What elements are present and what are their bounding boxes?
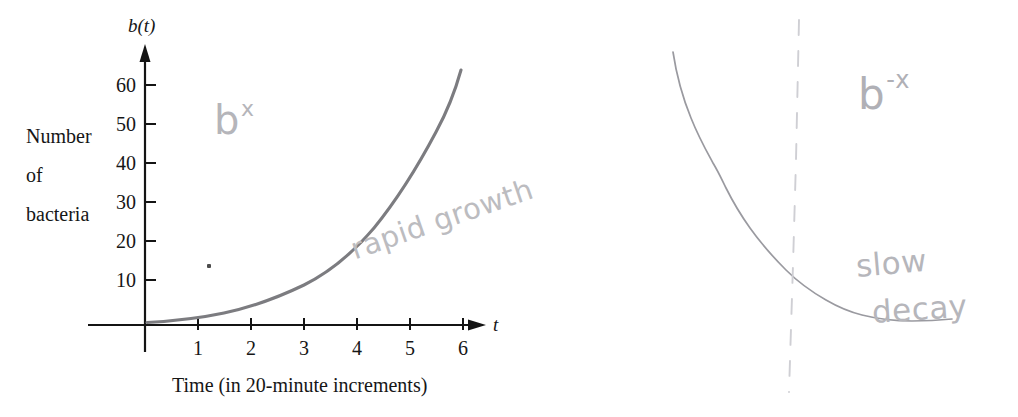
y-tick-label-40: 40 xyxy=(82,153,136,173)
dashed-reference-line xyxy=(789,20,799,392)
handwritten-annotation-b-power-neg-x: b-x xyxy=(858,74,909,116)
left-plot-axes xyxy=(88,44,486,352)
y-axis-caption-line-1: Number xyxy=(26,126,92,146)
scan-speck-artifact xyxy=(207,264,211,268)
y-tick-label-60: 60 xyxy=(82,75,136,95)
handwritten-b-base-right: b xyxy=(858,70,885,119)
x-tick-label-1: 1 xyxy=(188,338,208,358)
y-tick-label-20: 20 xyxy=(82,231,136,251)
x-tick-label-2: 2 xyxy=(241,338,261,358)
handwritten-annotation-b-power-x: bx xyxy=(214,100,253,140)
handwritten-annotation-decay: decay xyxy=(871,290,969,328)
x-tick-label-6: 6 xyxy=(453,338,473,358)
y-tick-marks xyxy=(145,85,156,280)
handwritten-b-exponent-right: -x xyxy=(886,66,910,94)
handwritten-annotation-slow: slow xyxy=(855,245,929,282)
x-axis-arrowhead xyxy=(468,320,486,331)
textbook-figure: b(t) t 60 50 40 30 20 10 1 2 3 4 5 6 Num… xyxy=(0,0,1018,417)
y-tick-label-10: 10 xyxy=(82,270,136,290)
x-axis-caption: Time (in 20-minute increments) xyxy=(172,375,427,395)
y-axis-variable-label: b(t) xyxy=(128,16,155,35)
growth-curve xyxy=(147,70,461,323)
y-tick-label-30: 30 xyxy=(82,192,136,212)
handwritten-b-base: b xyxy=(214,97,240,143)
x-tick-label-5: 5 xyxy=(400,338,420,358)
y-axis-arrowhead xyxy=(140,44,151,62)
y-axis-caption-line-2: of xyxy=(26,165,43,185)
x-tick-label-4: 4 xyxy=(347,338,367,358)
x-tick-label-3: 3 xyxy=(294,338,314,358)
x-axis-variable-label: t xyxy=(493,315,498,334)
handwritten-b-exponent: x xyxy=(241,96,255,121)
y-axis-caption-line-3: bacteria xyxy=(26,204,89,224)
decay-curve-sketch xyxy=(673,52,952,321)
